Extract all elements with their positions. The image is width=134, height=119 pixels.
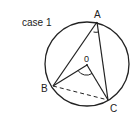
radius-oc (87, 65, 108, 100)
label-c: C (110, 103, 117, 114)
label-a: A (94, 9, 101, 20)
circle-diagram: case 1 A B C 0 (0, 0, 134, 119)
angle-arc-o (78, 71, 92, 76)
label-b: B (41, 83, 48, 94)
center-point (86, 64, 88, 66)
radius-ob (53, 65, 87, 86)
chord-ac (97, 22, 108, 100)
label-o: 0 (84, 54, 89, 64)
case-caption: case 1 (22, 17, 52, 28)
